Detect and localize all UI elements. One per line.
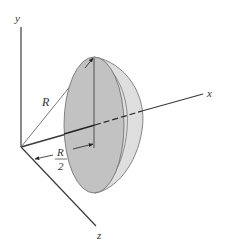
x-axis-front xyxy=(142,94,203,111)
half-radius-arrow-left xyxy=(35,155,53,159)
y-axis-label: y xyxy=(14,12,20,24)
hemisphere-diagram: y z x R R 2 xyxy=(0,0,226,246)
x-axis-back xyxy=(21,133,70,147)
z-axis-label: z xyxy=(96,229,102,241)
radius-label: R xyxy=(41,95,50,109)
half-radius-numerator: R xyxy=(56,146,64,158)
half-radius-denominator: 2 xyxy=(58,160,64,172)
x-axis-label: x xyxy=(206,87,212,99)
